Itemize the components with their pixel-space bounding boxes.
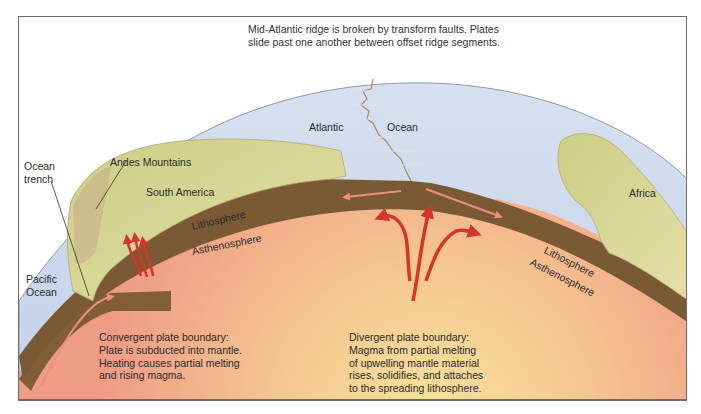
label-pacific-line-1: Pacific xyxy=(26,273,57,286)
note-convergent-line-1: Convergent plate boundary: xyxy=(99,331,242,344)
top-caption-line-1: Mid-Atlantic ridge is broken by transfor… xyxy=(248,23,500,36)
top-caption-line-2: slide past one another between offset ri… xyxy=(248,36,500,49)
label-africa: Africa xyxy=(629,187,656,200)
label-south-america: South America xyxy=(146,186,214,199)
label-ocean-trench-line-2: trench xyxy=(24,173,55,186)
label-andes-mountains: Andes Mountains xyxy=(110,156,191,169)
note-divergent-line-3: of upwelling mantle material xyxy=(349,357,483,370)
note-convergent-boundary: Convergent plate boundary: Plate is subd… xyxy=(99,331,242,382)
figure-frame: Mid-Atlantic ridge is broken by transfor… xyxy=(18,16,687,401)
note-divergent-line-2: Magma from partial melting xyxy=(349,344,483,357)
label-ocean: Ocean xyxy=(387,121,418,134)
label-ocean-trench: Ocean trench xyxy=(24,160,55,185)
label-pacific-ocean: Pacific Ocean xyxy=(26,273,57,298)
note-divergent-line-4: rises, solidifies, and attaches xyxy=(349,369,483,382)
label-atlantic: Atlantic xyxy=(309,121,343,134)
note-divergent-boundary: Divergent plate boundary: Magma from par… xyxy=(349,331,483,395)
note-convergent-line-3: Heating causes partial melting xyxy=(99,357,242,370)
top-caption: Mid-Atlantic ridge is broken by transfor… xyxy=(248,23,500,49)
note-convergent-line-2: Plate is subducted into mantle. xyxy=(99,344,242,357)
note-divergent-line-5: to the spreading lithosphere. xyxy=(349,382,483,395)
note-convergent-line-4: and rising magma. xyxy=(99,369,242,382)
note-divergent-line-1: Divergent plate boundary: xyxy=(349,331,483,344)
label-pacific-line-2: Ocean xyxy=(26,286,57,299)
label-ocean-trench-line-1: Ocean xyxy=(24,160,55,173)
